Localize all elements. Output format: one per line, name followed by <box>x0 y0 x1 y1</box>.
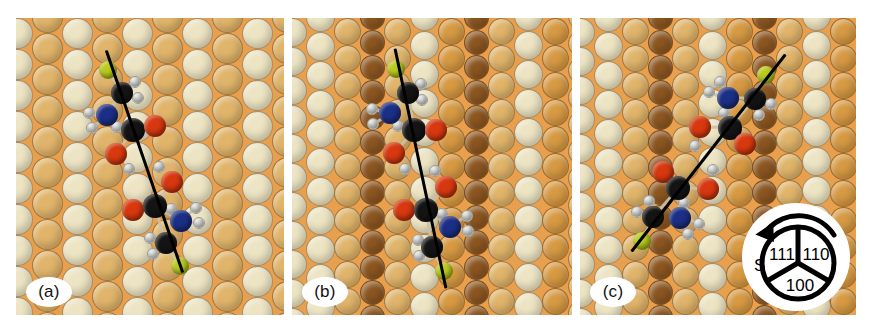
atom-o <box>383 142 405 164</box>
atom-o <box>105 143 127 165</box>
svg-text:111: 111 <box>769 245 795 264</box>
atom-o <box>697 178 719 200</box>
panel-label-b: (b) <box>302 277 348 307</box>
atom-h <box>753 109 765 121</box>
atom-h <box>86 122 98 134</box>
svg-text:S: S <box>754 256 765 275</box>
atom-n <box>170 210 192 232</box>
atom-h <box>689 140 701 152</box>
atom-n <box>96 104 118 126</box>
molecule-b <box>292 18 572 315</box>
stereographic-triangle-compass: S 111 110 100 <box>742 203 850 311</box>
atom-h <box>123 163 135 175</box>
atom-h <box>707 164 719 176</box>
atom-o <box>144 115 166 137</box>
atom-o <box>122 199 144 221</box>
atom-h <box>693 218 705 230</box>
atom-o <box>393 199 415 221</box>
atom-h <box>714 76 726 88</box>
molecule-a <box>16 18 284 315</box>
atom-h <box>765 98 777 110</box>
atom-h <box>703 86 715 98</box>
atom-o <box>734 133 756 155</box>
atom-o <box>435 176 457 198</box>
atom-h <box>193 217 205 229</box>
atom-h <box>83 107 95 119</box>
atom-h <box>132 92 144 104</box>
atom-h <box>429 165 441 177</box>
panel-label-c: (c) <box>590 277 636 307</box>
atom-h <box>367 118 379 130</box>
atom-n <box>717 87 739 109</box>
atom-h <box>366 103 378 115</box>
atom-o <box>689 116 711 138</box>
atom-o <box>161 171 183 193</box>
atom-o <box>425 119 447 141</box>
atom-n <box>669 207 691 229</box>
atom-h <box>190 202 202 214</box>
atom-n <box>379 102 401 124</box>
figure-root: (a) (b) (c) S 111 110 100 <box>0 0 872 330</box>
panel-c: (c) S 111 110 100 <box>580 18 856 315</box>
atom-h <box>462 225 474 237</box>
atom-h <box>461 210 473 222</box>
atom-h <box>153 161 165 173</box>
atom-h <box>399 163 411 175</box>
atom-n <box>439 216 461 238</box>
svg-text:100: 100 <box>786 276 814 295</box>
atom-h <box>682 228 694 240</box>
panel-b: (b) <box>292 18 572 315</box>
panel-label-a: (a) <box>26 277 72 307</box>
svg-text:110: 110 <box>802 245 829 264</box>
panel-a: (a) <box>16 18 284 315</box>
